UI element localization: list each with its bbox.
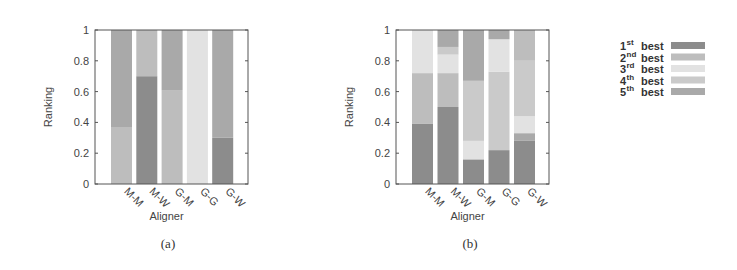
y-tick-label: 0.8: [375, 55, 390, 67]
bar-segment: [162, 90, 183, 184]
subfigure-caption: (b): [462, 236, 477, 251]
bar-segment: [412, 124, 433, 184]
legend-rank-suffix: th: [627, 73, 635, 82]
bar-segment: [111, 30, 132, 127]
legend-rank-number: 3: [620, 63, 626, 75]
bar-segment: [162, 30, 183, 90]
bar-segment: [514, 116, 535, 133]
bar-segment: [438, 30, 459, 47]
legend-swatch: [671, 42, 705, 49]
bar-segment: [463, 30, 484, 81]
figure-canvas: M-MM-WG-MG-GG-W00.20.40.60.81RankingAlig…: [0, 0, 737, 270]
legend-label: best: [641, 75, 664, 87]
y-tick-label: 0.8: [74, 55, 89, 67]
bar-segment: [412, 30, 433, 73]
x-tick-label: M-M: [423, 185, 447, 209]
legend-label: best: [641, 40, 664, 52]
bar-segment: [514, 61, 535, 116]
y-tick-label: 0: [384, 178, 390, 190]
legend-rank-number: 1: [620, 40, 626, 52]
x-tick-label: G-W: [223, 185, 248, 210]
bar-segment: [514, 30, 535, 61]
x-axis-title: Aligner: [450, 210, 485, 222]
bar-segment: [438, 73, 459, 107]
y-tick-label: 1: [384, 24, 390, 36]
y-axis-title: Ranking: [343, 87, 355, 127]
bar-segment: [136, 30, 157, 76]
y-tick-label: 0.2: [375, 147, 390, 159]
bar-segment: [212, 138, 233, 184]
bar-segment: [463, 159, 484, 184]
x-tick-label: G-W: [525, 185, 550, 210]
x-tick-label: G-G: [500, 185, 523, 208]
bar-segment: [136, 76, 157, 184]
legend-rank-suffix: rd: [627, 61, 635, 70]
legend-rank-suffix: nd: [627, 50, 637, 59]
legend-rank-number: 5: [620, 86, 626, 98]
subfigure-caption: (a): [161, 236, 175, 251]
legend: 1stbest2ndbest3rdbest4thbest5thbest: [620, 38, 705, 98]
legend-label: best: [641, 52, 664, 64]
x-axis-title: Aligner: [149, 210, 184, 222]
legend-label: best: [641, 86, 664, 98]
bar-segment: [438, 47, 459, 55]
bar-segment: [463, 81, 484, 141]
x-tick-label: G-M: [173, 185, 197, 209]
bar-segment: [412, 73, 433, 124]
y-tick-label: 1: [83, 24, 89, 36]
y-tick-label: 0: [83, 178, 89, 190]
y-tick-label: 0.4: [74, 116, 89, 128]
legend-swatch: [671, 65, 705, 72]
bar-segment: [111, 127, 132, 184]
bar-segment: [489, 72, 510, 151]
legend-swatch: [671, 77, 705, 84]
x-tick-label: M-W: [147, 185, 172, 210]
bar-segment: [187, 30, 208, 184]
bar-segment: [489, 150, 510, 184]
bar-segment: [514, 133, 535, 141]
y-tick-label: 0.2: [74, 147, 89, 159]
y-axis-title: Ranking: [42, 87, 54, 127]
legend-rank-suffix: st: [627, 38, 634, 47]
chart-panel-b: M-MM-WG-MG-GG-W00.20.40.60.81RankingAlig…: [343, 24, 550, 251]
bar-segment: [489, 30, 510, 39]
bar-segment: [463, 141, 484, 159]
legend-rank-number: 2: [620, 52, 626, 64]
legend-swatch: [671, 54, 705, 61]
chart-panel-a: M-MM-WG-MG-GG-W00.20.40.60.81RankingAlig…: [42, 24, 248, 251]
legend-item: 5thbest: [620, 84, 705, 98]
bar-segment: [438, 55, 459, 73]
x-tick-label: G-M: [474, 185, 498, 209]
y-tick-label: 0.6: [375, 86, 390, 98]
bar-segment: [489, 39, 510, 71]
bar-segment: [438, 107, 459, 184]
y-tick-label: 0.6: [74, 86, 89, 98]
legend-swatch: [671, 88, 705, 95]
bar-segment: [212, 30, 233, 138]
x-tick-label: M-W: [449, 185, 474, 210]
y-tick-label: 0.4: [375, 116, 390, 128]
x-tick-label: G-G: [198, 185, 221, 208]
legend-rank-suffix: th: [627, 84, 635, 93]
bar-segment: [514, 141, 535, 184]
x-tick-label: M-M: [122, 185, 146, 209]
legend-label: best: [641, 63, 664, 75]
